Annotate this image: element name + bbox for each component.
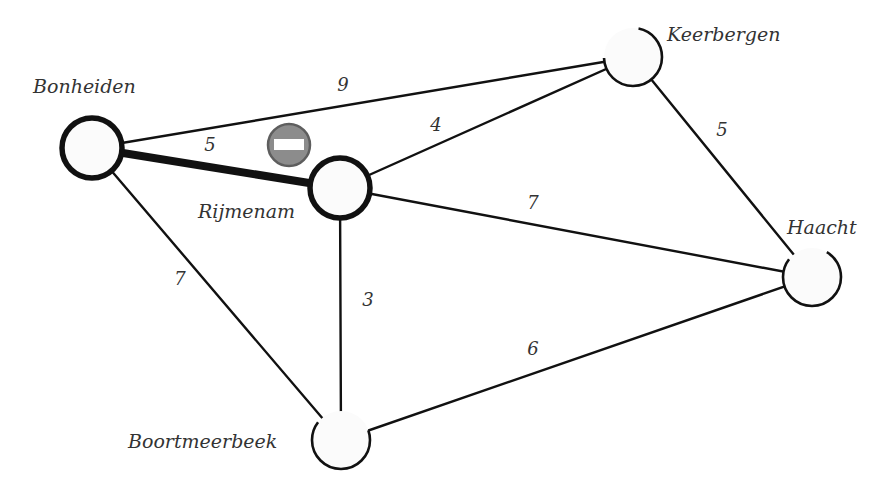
label-haacht: Haacht bbox=[786, 216, 857, 238]
node-haacht bbox=[783, 248, 841, 306]
label-bonheiden: Bonheiden bbox=[32, 75, 136, 97]
node-boortmeerbeek bbox=[312, 411, 370, 469]
road-network-graph: 9 5 4 5 7 7 3 6 Bonheiden Rijmenam bbox=[0, 0, 892, 504]
edge-keerbergen-haacht bbox=[633, 57, 812, 277]
edge-bonheiden-boortmeerbeek bbox=[92, 148, 341, 440]
weight-rijmenam-boortmeerbeek: 3 bbox=[362, 289, 373, 310]
node-keerbergen bbox=[604, 28, 662, 86]
label-keerbergen: Keerbergen bbox=[666, 23, 780, 45]
edge-rijmenam-haacht bbox=[340, 188, 812, 277]
label-rijmenam: Rijmenam bbox=[197, 200, 295, 222]
edge-bonheiden-keerbergen bbox=[92, 57, 633, 148]
node-rijmenam bbox=[310, 158, 370, 218]
label-boortmeerbeek: Boortmeerbeek bbox=[127, 430, 277, 452]
weight-keerbergen-haacht: 5 bbox=[716, 119, 727, 140]
weight-rijmenam-haacht: 7 bbox=[527, 192, 539, 213]
edges bbox=[92, 57, 812, 440]
edge-rijmenam-keerbergen bbox=[340, 57, 633, 188]
node-labels: Bonheiden Rijmenam Keerbergen Haacht Boo… bbox=[32, 23, 857, 452]
weight-boortmeerbeek-haacht: 6 bbox=[527, 338, 538, 359]
node-bonheiden bbox=[62, 118, 122, 178]
weight-bonheiden-rijmenam: 5 bbox=[204, 134, 215, 155]
edge-rijmenam-boortmeerbeek bbox=[340, 188, 341, 440]
no-entry-icon bbox=[268, 124, 310, 166]
edge-boortmeerbeek-haacht bbox=[341, 277, 812, 440]
weight-rijmenam-keerbergen: 4 bbox=[429, 114, 441, 135]
weight-bonheiden-boortmeerbeek: 7 bbox=[174, 268, 186, 289]
weight-bonheiden-keerbergen: 9 bbox=[337, 74, 348, 95]
